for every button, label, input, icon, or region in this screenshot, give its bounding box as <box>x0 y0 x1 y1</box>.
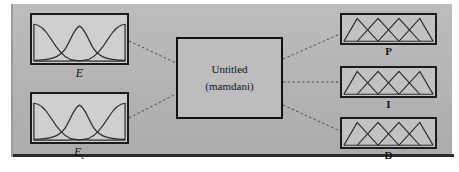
output-variable-label-i: I <box>340 99 437 110</box>
mf-plot-d <box>342 119 435 147</box>
fis-editor-figure: E Ec Untitled (mamdani) <box>0 0 459 172</box>
output-variable-box-i[interactable] <box>340 66 437 98</box>
output-variable-box-p[interactable] <box>340 13 437 45</box>
fis-system-box[interactable]: Untitled (mamdani) <box>176 37 283 119</box>
input-variable-label-e: E <box>30 67 129 82</box>
mf-plot-e <box>32 15 127 63</box>
fis-system-type: (mamdani) <box>205 78 253 95</box>
output-variable-label-d: D <box>340 150 437 161</box>
input-variable-box-e[interactable] <box>30 13 129 65</box>
mf-plot-p <box>342 15 435 43</box>
output-variable-box-d[interactable] <box>340 117 437 149</box>
input-variable-box-ec[interactable] <box>30 92 129 144</box>
input-variable-label-ec: Ec <box>30 146 129 161</box>
output-variable-label-p: P <box>340 46 437 57</box>
mf-plot-i <box>342 68 435 96</box>
fis-system-name: Untitled <box>211 61 247 78</box>
mf-plot-ec <box>32 94 127 142</box>
